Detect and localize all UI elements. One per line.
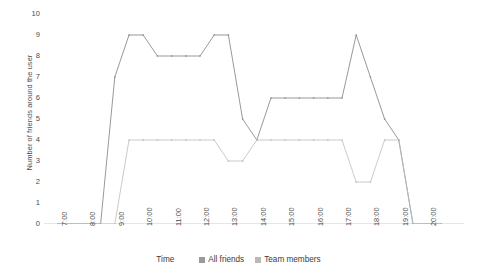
data-point bbox=[114, 223, 115, 224]
data-point bbox=[327, 97, 328, 98]
data-point bbox=[199, 55, 200, 56]
legend-swatch-team-members bbox=[255, 257, 261, 263]
data-point bbox=[441, 223, 442, 224]
data-point bbox=[270, 97, 271, 98]
y-axis-tick-label: 10 bbox=[24, 10, 40, 18]
data-point bbox=[299, 139, 300, 140]
legend-item-team-members[interactable]: Team members bbox=[255, 255, 320, 264]
series-line-all-friends bbox=[58, 35, 441, 224]
x-axis-tick-labels: 7:008:009:0010:0011:0012:0013:0014:0015:… bbox=[44, 226, 464, 256]
data-point bbox=[384, 139, 385, 140]
data-point bbox=[128, 139, 129, 140]
y-axis-tick-label: 1 bbox=[24, 199, 40, 207]
data-point bbox=[157, 55, 158, 56]
x-axis-tick-label: 15:00 bbox=[288, 208, 296, 227]
data-point bbox=[242, 118, 243, 119]
data-point bbox=[356, 181, 357, 182]
data-point bbox=[214, 139, 215, 140]
data-point bbox=[57, 223, 58, 224]
chart-legend: Time All friends Team members bbox=[0, 255, 477, 264]
y-axis-tick-label: 4 bbox=[24, 136, 40, 144]
data-point bbox=[341, 139, 342, 140]
legend-label-team-members: Team members bbox=[264, 255, 320, 264]
data-point bbox=[427, 223, 428, 224]
x-axis-tick-label: 14:00 bbox=[260, 208, 268, 227]
data-point bbox=[285, 139, 286, 140]
data-point bbox=[114, 76, 115, 77]
x-axis-tick-label: 20:00 bbox=[430, 208, 438, 227]
y-axis-tick-label: 8 bbox=[24, 52, 40, 60]
y-axis-tick-labels: 012345678910 bbox=[22, 14, 40, 224]
plot-svg bbox=[44, 14, 464, 224]
y-axis-tick-label: 0 bbox=[24, 220, 40, 228]
data-point bbox=[100, 223, 101, 224]
data-point bbox=[171, 55, 172, 56]
y-axis-tick-label: 2 bbox=[24, 178, 40, 186]
data-point bbox=[384, 118, 385, 119]
data-point bbox=[214, 34, 215, 35]
x-axis-title: Time bbox=[156, 255, 174, 264]
x-axis-tick-label: 9:00 bbox=[118, 212, 126, 226]
x-axis-tick-label: 18:00 bbox=[373, 208, 381, 227]
data-point bbox=[143, 34, 144, 35]
legend-swatch-all-friends bbox=[199, 257, 205, 263]
data-point bbox=[171, 139, 172, 140]
data-point bbox=[157, 139, 158, 140]
data-point bbox=[185, 139, 186, 140]
data-point bbox=[299, 97, 300, 98]
data-point bbox=[228, 160, 229, 161]
x-axis-tick-label: 17:00 bbox=[345, 208, 353, 227]
data-point bbox=[370, 181, 371, 182]
x-axis-tick-label: 11:00 bbox=[175, 208, 183, 226]
y-axis-tick-label: 6 bbox=[24, 94, 40, 102]
data-point bbox=[341, 97, 342, 98]
data-point bbox=[143, 139, 144, 140]
data-point bbox=[313, 97, 314, 98]
line-chart: Number of friends around the user 012345… bbox=[0, 0, 477, 275]
data-point bbox=[185, 55, 186, 56]
data-point bbox=[270, 139, 271, 140]
y-axis-tick-label: 3 bbox=[24, 157, 40, 165]
data-point bbox=[398, 139, 399, 140]
data-point bbox=[313, 139, 314, 140]
data-point bbox=[128, 34, 129, 35]
x-axis-tick-label: 7:00 bbox=[61, 212, 69, 226]
data-point bbox=[86, 223, 87, 224]
y-axis-tick-label: 5 bbox=[24, 115, 40, 123]
y-axis-tick-label: 7 bbox=[24, 73, 40, 81]
x-axis-tick-label: 8:00 bbox=[89, 212, 97, 226]
data-point bbox=[327, 139, 328, 140]
data-point bbox=[370, 76, 371, 77]
data-point bbox=[199, 139, 200, 140]
plot-area bbox=[44, 14, 464, 224]
data-point bbox=[256, 139, 257, 140]
x-axis-tick-label: 12:00 bbox=[203, 208, 211, 227]
data-point bbox=[412, 223, 413, 224]
legend-label-all-friends: All friends bbox=[208, 255, 244, 264]
x-axis-tick-label: 13:00 bbox=[231, 208, 239, 227]
data-point bbox=[228, 34, 229, 35]
data-point bbox=[285, 97, 286, 98]
y-axis-tick-label: 9 bbox=[24, 31, 40, 39]
series-line-team-members bbox=[58, 140, 441, 224]
x-axis-tick-label: 16:00 bbox=[317, 208, 325, 227]
x-axis-tick-label: 10:00 bbox=[146, 208, 154, 227]
data-point bbox=[72, 223, 73, 224]
legend-item-all-friends[interactable]: All friends bbox=[199, 255, 244, 264]
data-point bbox=[356, 34, 357, 35]
data-point bbox=[242, 160, 243, 161]
x-axis-tick-label: 19:00 bbox=[402, 208, 410, 227]
